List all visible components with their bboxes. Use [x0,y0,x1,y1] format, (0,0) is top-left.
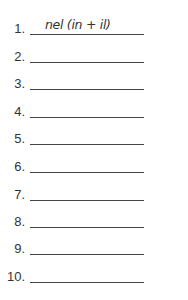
answer-row-2: 2. [0,44,188,64]
item-number: 3. [14,77,25,91]
item-number: 2. [14,50,25,64]
answer-blank[interactable] [30,46,144,63]
answer-blank[interactable] [30,101,144,118]
item-number: 10. [7,270,25,284]
answer-row-10: 10. [0,264,188,284]
item-number: 5. [14,132,25,146]
answer-row-5: 5. [0,126,188,146]
answer-row-8: 8. [0,209,188,229]
item-number: 4. [14,105,25,119]
answer-blank[interactable] [30,156,144,173]
item-number: 9. [14,242,25,256]
answer-blank[interactable] [30,128,144,145]
answer-blank[interactable] [30,184,144,201]
answer-blank[interactable] [30,266,144,283]
item-number: 8. [14,215,25,229]
answer-blank[interactable] [30,73,144,90]
answer-blank[interactable] [30,238,144,255]
item-number: 1. [14,22,25,36]
answer-row-6: 6. [0,154,188,174]
answer-blank[interactable]: nel (in + il) [30,18,144,35]
item-number: 7. [14,188,25,202]
answer-text: nel (in + il) [45,17,111,32]
answer-row-9: 9. [0,236,188,256]
answer-row-1: 1. nel (in + il) [0,16,188,36]
answer-row-7: 7. [0,182,188,202]
answer-row-3: 3. [0,71,188,91]
answer-blank[interactable] [30,211,144,228]
answer-row-4: 4. [0,99,188,119]
item-number: 6. [14,160,25,174]
